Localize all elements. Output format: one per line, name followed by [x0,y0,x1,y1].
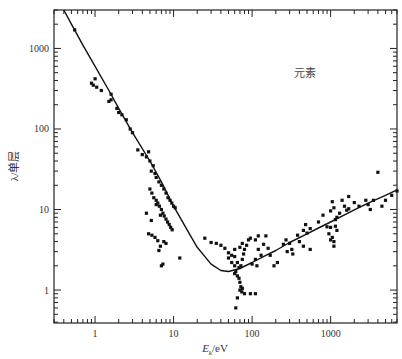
data-point [243,292,246,295]
data-point [338,212,341,215]
data-point [238,281,241,284]
data-point [327,232,330,235]
data-point [153,236,156,239]
data-point [357,205,360,208]
data-point [243,248,246,251]
x-tick-label: 1000 [321,328,341,339]
data-point [73,28,76,31]
data-point [160,264,163,267]
data-point [145,155,148,158]
data-point [347,195,350,198]
annotation-elements: 元素 [294,67,316,79]
data-point [115,107,118,110]
data-point [227,256,230,259]
data-point [255,264,258,267]
data-point [129,127,132,130]
data-point [136,148,139,151]
data-point [164,192,167,195]
data-point [174,206,177,209]
data-point [227,251,230,254]
data-point [94,77,97,80]
data-point [168,199,171,202]
data-point [236,296,239,299]
data-point [233,255,236,258]
data-point [153,172,156,175]
data-point [329,238,332,241]
x-tick-label: 100 [245,328,260,339]
data-point [334,225,337,228]
plot-frame [54,10,397,323]
data-point [302,245,305,248]
axis-ticks [54,10,397,323]
data-point [372,199,375,202]
data-point [332,245,335,248]
svg-text:Ek/eV: Ek/eV [201,342,228,357]
data-point [376,171,379,174]
y-tick-label: 10 [39,204,49,215]
data-point [260,254,263,257]
data-point [343,205,346,208]
data-point [162,187,165,190]
data-point [245,244,248,247]
x-tick-label: 1 [93,328,98,339]
data-point [251,263,254,266]
data-point [325,225,328,228]
x-tick-label: 10 [169,328,179,339]
data-point [380,205,383,208]
data-point [288,242,291,245]
data-point [170,202,173,205]
data-point [163,214,166,217]
data-point [254,238,257,241]
data-point [100,89,103,92]
y-tick-label: 1 [44,285,49,296]
data-point [390,194,393,197]
data-point [286,250,289,253]
data-point [272,264,275,267]
data-point [329,209,332,212]
data-point [110,93,113,96]
data-point [367,203,370,206]
data-point [233,264,236,267]
data-point [254,292,257,295]
data-point [254,258,257,261]
data-point [150,234,153,237]
data-point [238,246,241,249]
data-point [241,242,244,245]
data-point [233,248,236,251]
data-point [147,150,150,153]
data-point [234,306,237,309]
data-point [241,258,244,261]
data-point [156,239,159,242]
data-point [203,237,206,240]
data-point [223,247,226,250]
data-point [230,261,233,264]
data-point [150,170,153,173]
data-point [210,241,213,244]
data-point [364,199,367,202]
data-point [150,192,153,195]
data-point [237,277,240,280]
data-point [230,254,233,257]
x-axis-title-unit: /eV [212,342,228,354]
data-point [304,223,307,226]
data-point [141,153,144,156]
data-point [282,243,285,246]
data-point [159,245,162,248]
data-point [305,232,308,235]
y-tick-label: 100 [34,123,49,134]
data-point [242,252,245,255]
data-point [302,229,305,232]
data-point [353,201,356,204]
data-point [267,247,270,250]
data-point [298,240,301,243]
data-point [332,240,335,243]
data-point [296,234,299,237]
data-point [152,164,155,167]
chart: 11010010001101001000 Ek/eV λ/单层 元素 [0,0,402,359]
y-tick-label: 1000 [29,43,49,54]
fit-curve-line [64,10,397,272]
data-point [309,227,312,230]
data-point [215,242,218,245]
data-point [125,118,128,121]
data-point [164,218,167,221]
